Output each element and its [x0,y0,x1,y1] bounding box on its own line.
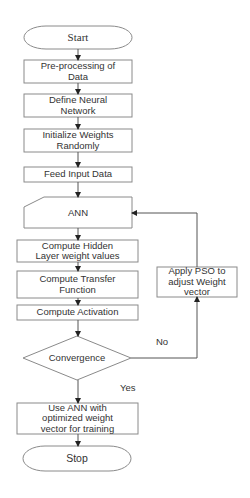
compute-transfer-label: Compute Transfer Function [17,271,138,298]
convergence-label: Convergence [23,350,131,366]
apply-pso-label: Apply PSO to adjust Weight vector [157,267,237,297]
start-label: Start [24,26,132,49]
arrow-pso-ann [132,213,197,267]
compute-hidden-label: Compute Hidden Layer weight values [17,240,138,262]
compute-activation-label: Compute Activation [17,305,138,320]
arrow-convergence-pso [131,297,197,358]
feed-input-label: Feed Input Data [24,167,132,182]
ann-label: ANN [24,199,132,228]
preprocess-label: Pre-processing of Data [24,60,132,83]
init-weights-label: Initialize Weights Randomly [24,129,132,152]
define-nn-label: Define Neural Network [24,94,132,117]
yes-edge-label: Yes [120,382,136,393]
use-ann-label: Use ANN with optimized weight vector for… [17,403,138,434]
no-edge-label: No [156,336,168,347]
stop-label: Stop [23,446,131,471]
